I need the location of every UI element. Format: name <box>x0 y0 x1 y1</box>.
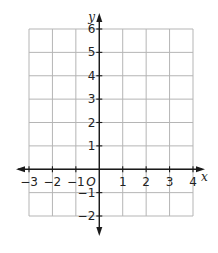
y-tick-label: 4 <box>88 69 96 83</box>
y-tick-label: 2 <box>88 116 96 130</box>
x-tick-label: 3 <box>166 175 174 189</box>
axes <box>16 13 205 236</box>
y-axis-label: y <box>87 10 95 24</box>
x-tick-label: −2 <box>44 175 62 189</box>
x-tick-label: 2 <box>142 175 150 189</box>
origin-label: O <box>86 175 95 189</box>
y-tick-label: −2 <box>78 209 96 223</box>
x-axis-label: x <box>201 170 208 184</box>
x-axis-left-arrow-icon <box>16 166 25 172</box>
y-tick-label: 6 <box>88 22 96 36</box>
y-tick-label: 1 <box>88 139 96 153</box>
y-axis-up-arrow-icon <box>96 13 102 22</box>
coordinate-plane: −3−2−11234654321−1−2 x y O <box>0 0 218 253</box>
y-tick-label: 5 <box>88 45 96 59</box>
y-axis-down-arrow-icon <box>96 227 102 236</box>
x-tick-label: −3 <box>20 175 38 189</box>
x-tick-label: 1 <box>119 175 127 189</box>
y-tick-label: 3 <box>88 92 96 106</box>
x-tick-label: 4 <box>189 175 197 189</box>
